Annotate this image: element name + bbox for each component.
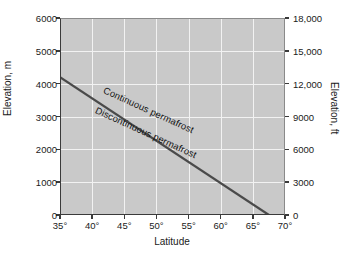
- x-axis-tick: [284, 215, 286, 219]
- y-axis-right-tick-label: 18,000: [293, 13, 322, 24]
- y-axis-left-tick-label: 4000: [36, 78, 57, 89]
- x-axis-tick: [156, 215, 158, 219]
- y-axis-right-tick: [285, 17, 289, 19]
- x-axis-tick-label: 45°: [117, 220, 131, 231]
- y-axis-right-tick-label: 9000: [293, 111, 314, 122]
- x-axis-tick-label: 60°: [214, 220, 228, 231]
- y-axis-right-tick: [285, 83, 289, 85]
- x-axis-tick: [220, 215, 222, 219]
- x-axis-tick-label: 65°: [246, 220, 260, 231]
- y-axis-right-tick-label: 12,000: [293, 78, 322, 89]
- plot-area: Continuous permafrost Discontinuous perm…: [60, 18, 285, 215]
- y-axis-right-tick-label: 6000: [293, 144, 314, 155]
- y-axis-right-tick: [285, 116, 289, 118]
- y-axis-left-tick-label: 2000: [36, 144, 57, 155]
- x-axis-tick-label: 70°: [278, 220, 292, 231]
- y-axis-left-tick-label: 0: [52, 210, 57, 221]
- x-axis-tick-label: 50°: [149, 220, 163, 231]
- y-axis-left-tick-label: 5000: [36, 45, 57, 56]
- x-axis-title: Latitude: [154, 236, 190, 247]
- x-axis-tick: [59, 215, 61, 219]
- x-axis-tick: [91, 215, 93, 219]
- x-axis-tick-label: 40°: [85, 220, 99, 231]
- y-axis-right-tick: [285, 181, 289, 183]
- x-axis-tick-label: 55°: [181, 220, 195, 231]
- y-axis-right-title: Elevation, ft: [329, 82, 340, 134]
- y-axis-left-tick-label: 1000: [36, 177, 57, 188]
- x-axis-tick: [252, 215, 254, 219]
- y-axis-right-tick: [285, 50, 289, 52]
- x-axis-tick-label: 35°: [53, 220, 67, 231]
- y-axis-right-tick-label: 3000: [293, 177, 314, 188]
- y-axis-left-tick-label: 3000: [36, 111, 57, 122]
- y-axis-right-tick-label: 15,000: [293, 45, 322, 56]
- x-axis-tick: [188, 215, 190, 219]
- x-axis-tick: [124, 215, 126, 219]
- y-axis-right-tick-label: 0: [293, 210, 298, 221]
- y-axis-right-tick: [285, 149, 289, 151]
- permafrost-elevation-chart: Continuous permafrost Discontinuous perm…: [0, 0, 349, 258]
- y-axis-left-title: Elevation, m: [2, 61, 13, 116]
- y-axis-left-tick-label: 6000: [36, 13, 57, 24]
